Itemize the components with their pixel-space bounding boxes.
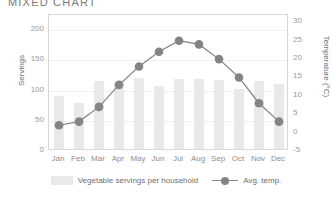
legend-line-swatch xyxy=(212,176,238,185)
y-tick-right-5: 5 xyxy=(293,109,323,117)
y-tick-right-0: 0 xyxy=(293,128,323,136)
data-point-nov xyxy=(255,99,264,108)
data-point-apr xyxy=(115,81,124,90)
y-tick-left-100: 100 xyxy=(4,86,44,94)
y-tick-left-0: 0 xyxy=(4,146,44,154)
data-point-feb xyxy=(75,117,84,126)
data-point-mar xyxy=(95,103,104,112)
y-tick-right--5: -5 xyxy=(293,146,323,154)
y-tick-right-15: 15 xyxy=(293,72,323,80)
chart-title: MIXED CHART xyxy=(8,0,97,8)
temperature-line xyxy=(59,41,279,126)
y-tick-right-10: 10 xyxy=(293,91,323,99)
y-tick-right-30: 30 xyxy=(293,17,323,25)
x-tick-dec: Dec xyxy=(266,155,290,163)
y-tick-left-150: 150 xyxy=(4,55,44,63)
data-point-jan xyxy=(55,121,64,130)
data-point-aug xyxy=(195,40,204,49)
data-point-jun xyxy=(155,47,164,56)
legend-item-line: Avg. temp. xyxy=(212,176,281,185)
plot-area xyxy=(48,14,288,150)
y-tick-left-50: 50 xyxy=(4,116,44,124)
chart-legend: Vegetable servings per household Avg. te… xyxy=(0,176,332,185)
data-point-may xyxy=(135,62,144,71)
data-point-dec xyxy=(275,117,284,126)
line-series xyxy=(49,15,289,151)
legend-line-label: Avg. temp. xyxy=(243,176,281,185)
y-tick-right-25: 25 xyxy=(293,36,323,44)
data-point-oct xyxy=(235,73,244,82)
data-point-jul xyxy=(175,36,184,45)
y-tick-left-200: 200 xyxy=(4,25,44,33)
legend-item-bars: Vegetable servings per household xyxy=(51,176,199,185)
legend-bar-label: Vegetable servings per household xyxy=(78,176,199,185)
mixed-chart: MIXED CHART Servings Temperature (°C) 05… xyxy=(0,0,332,200)
y-tick-right-20: 20 xyxy=(293,54,323,62)
data-point-sep xyxy=(215,55,224,64)
legend-bar-swatch xyxy=(51,176,73,185)
